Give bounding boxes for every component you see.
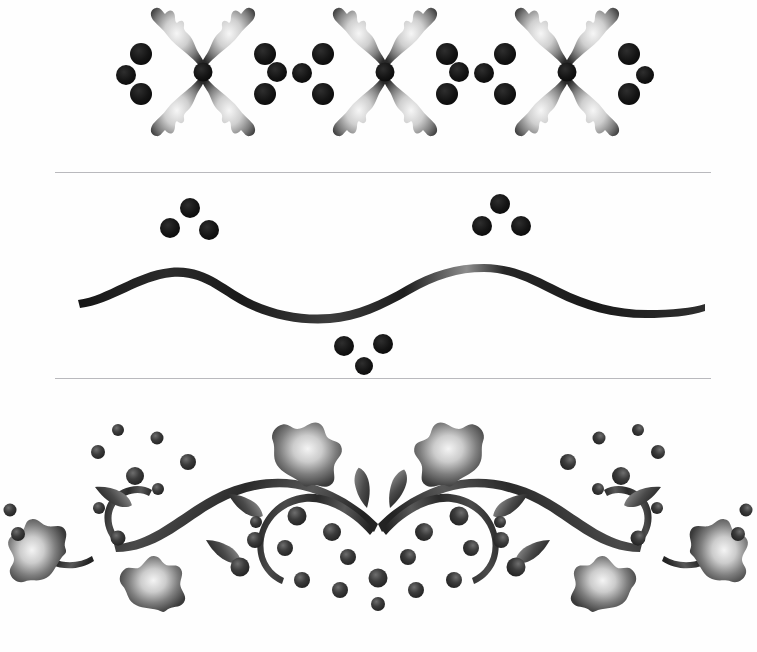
berry <box>400 549 416 565</box>
petal-upper-right <box>383 8 437 72</box>
berry <box>507 558 526 577</box>
berry <box>355 357 373 375</box>
petal-lower-right <box>383 72 437 136</box>
flower-motif-1 <box>130 8 276 136</box>
berry-cluster-trough <box>334 334 393 375</box>
flower-berry-upper-right <box>618 43 640 65</box>
vine-border-artwork <box>0 382 757 652</box>
vine-big-leaf-right-bottom <box>566 550 640 620</box>
berry <box>11 527 25 541</box>
berry <box>651 502 663 514</box>
vine-big-leaf-right-outer <box>686 516 753 588</box>
berry <box>446 572 462 588</box>
berry <box>560 454 576 470</box>
stencil-border-sheet <box>0 0 757 652</box>
petal-upper-left <box>151 8 205 72</box>
flower-berry-lower-left <box>312 83 334 105</box>
petal-lower-left <box>515 72 569 136</box>
petal-upper-right <box>565 8 619 72</box>
berry <box>463 540 479 556</box>
vine-leaflet-left-mid <box>224 489 267 521</box>
vine-big-leaf-left-bottom <box>116 550 190 620</box>
berry <box>731 527 745 541</box>
berry <box>112 424 124 436</box>
divider-top <box>55 172 711 173</box>
berry <box>493 532 509 548</box>
design-flower-border <box>0 0 757 170</box>
flower-berry-upper-right <box>436 43 458 65</box>
berry-cluster-right-crest <box>472 194 531 236</box>
flower-berry-lower-right <box>618 83 640 105</box>
linking-berries-1-2 <box>267 62 312 83</box>
berry <box>340 549 356 565</box>
berry <box>450 507 469 526</box>
berry <box>490 194 510 214</box>
vine-leaflet-right-mid <box>489 489 532 521</box>
flower-motif-2 <box>312 8 458 136</box>
flower-berry-lower-left <box>494 83 516 105</box>
berry <box>277 540 293 556</box>
berry <box>294 572 310 588</box>
wave-ribbon <box>78 264 705 323</box>
flower-motif-3 <box>494 8 640 136</box>
petal-upper-left <box>333 8 387 72</box>
flower-border-artwork <box>0 0 757 170</box>
berry <box>323 523 341 541</box>
design-wave-border <box>0 176 757 376</box>
berry <box>373 334 393 354</box>
flower-berry-upper-left <box>130 43 152 65</box>
berry <box>592 483 604 495</box>
berry <box>511 216 531 236</box>
linking-berries-2-3 <box>449 62 494 83</box>
berry <box>151 432 164 445</box>
berry <box>651 445 665 459</box>
petal-upper-right <box>201 8 255 72</box>
berry <box>250 516 262 528</box>
berry <box>472 216 492 236</box>
berry <box>632 424 644 436</box>
vine-big-leaf-left-outer <box>3 516 70 588</box>
berry <box>160 218 180 238</box>
berry <box>91 445 105 459</box>
flower-berry-lower-right <box>436 83 458 105</box>
berry <box>334 336 354 356</box>
berry <box>449 62 469 82</box>
linking-berries-right-edge <box>636 66 654 84</box>
berry <box>369 569 388 588</box>
vine-center-leaflet-left <box>351 466 376 509</box>
berry <box>247 532 263 548</box>
flower-center-dot <box>194 63 213 82</box>
vine-left-half <box>3 417 378 621</box>
flower-berry-lower-right <box>254 83 276 105</box>
flower-center-dot <box>558 63 577 82</box>
berry <box>474 63 494 83</box>
berry <box>612 467 630 485</box>
berry <box>288 507 307 526</box>
berry <box>636 66 654 84</box>
berry <box>494 516 506 528</box>
flower-center-dot <box>376 63 395 82</box>
vine-right-half <box>378 417 753 621</box>
berry <box>740 504 753 517</box>
petal-upper-left <box>515 8 569 72</box>
berry-cluster-left-crest <box>160 198 219 240</box>
berry <box>332 582 348 598</box>
wave-border-artwork <box>0 176 757 376</box>
berry <box>415 523 433 541</box>
berry <box>126 467 144 485</box>
berry <box>180 198 200 218</box>
flower-berry-upper-right <box>254 43 276 65</box>
berry <box>267 62 287 82</box>
petal-lower-right <box>565 72 619 136</box>
flower-berry-upper-left <box>312 43 334 65</box>
divider-bottom <box>55 378 711 379</box>
berry <box>180 454 196 470</box>
berry <box>152 483 164 495</box>
berry <box>4 504 17 517</box>
berry <box>199 220 219 240</box>
berry <box>408 582 424 598</box>
berry <box>593 432 606 445</box>
berry <box>116 65 136 85</box>
petal-lower-left <box>151 72 205 136</box>
berry <box>93 502 105 514</box>
